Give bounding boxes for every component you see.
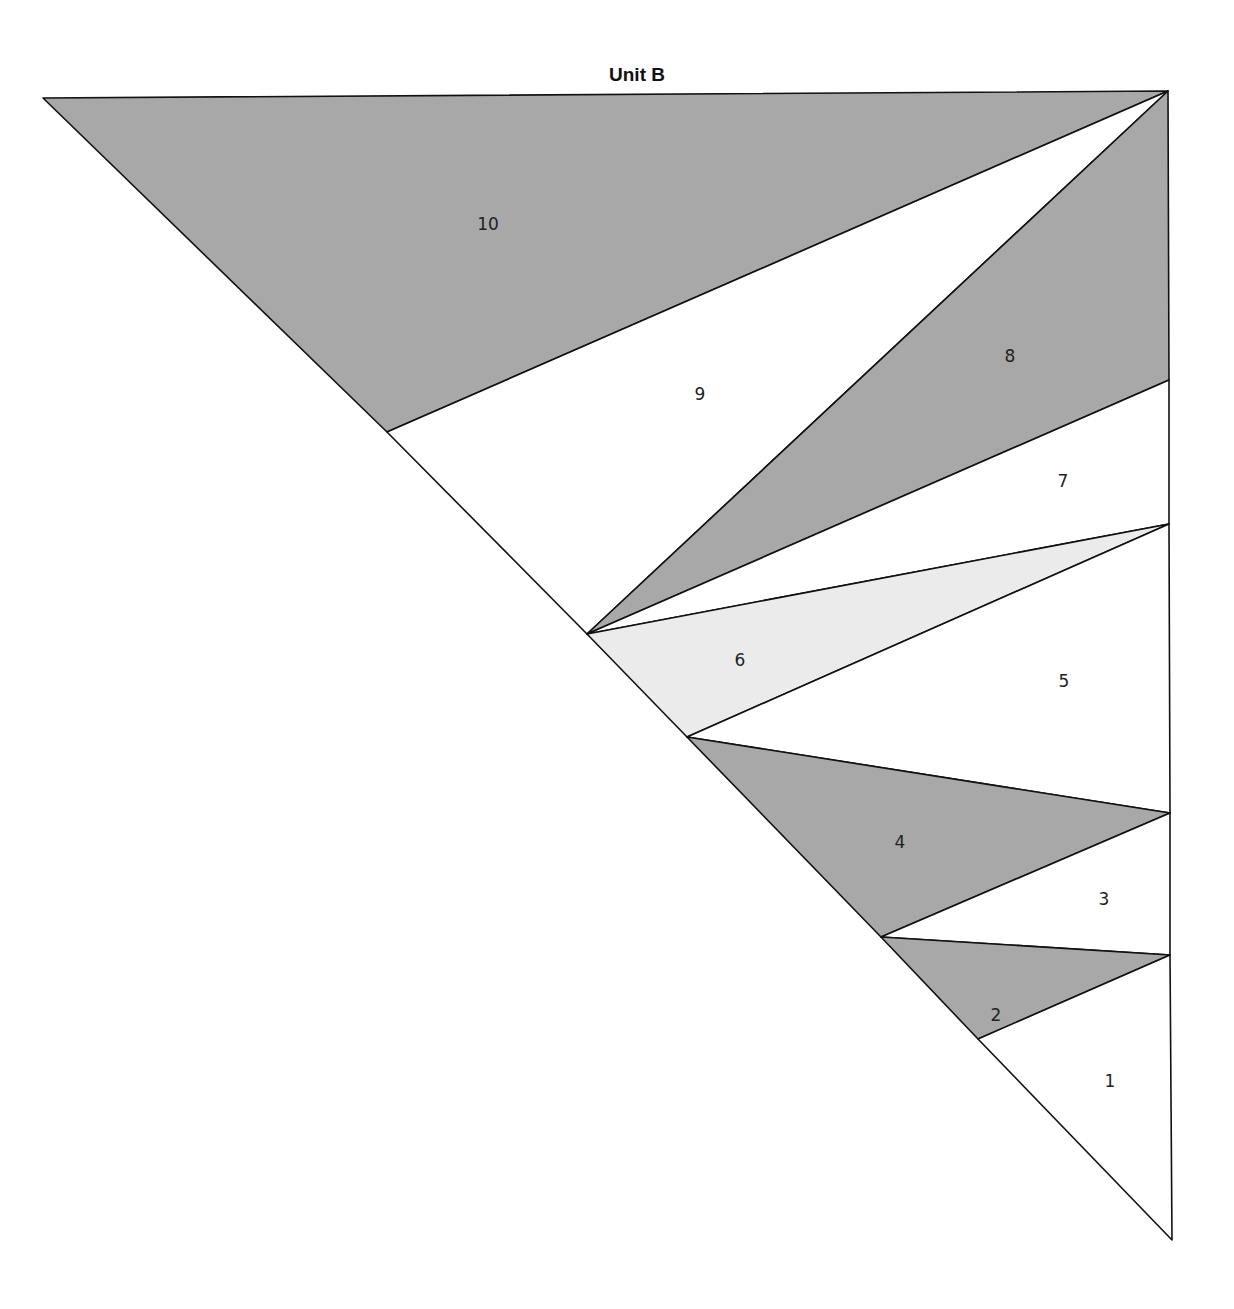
label-5: 5: [1059, 671, 1070, 691]
label-1: 1: [1105, 1071, 1116, 1091]
label-2: 2: [991, 1005, 1002, 1025]
label-10: 10: [477, 214, 499, 234]
label-6: 6: [735, 650, 746, 670]
paper-piecing-diagram: 10 9 8 7 6 5 4 3 2 1: [0, 0, 1234, 1309]
label-4: 4: [895, 832, 906, 852]
label-7: 7: [1058, 471, 1069, 491]
label-3: 3: [1099, 889, 1110, 909]
label-8: 8: [1005, 346, 1016, 366]
label-9: 9: [695, 384, 706, 404]
